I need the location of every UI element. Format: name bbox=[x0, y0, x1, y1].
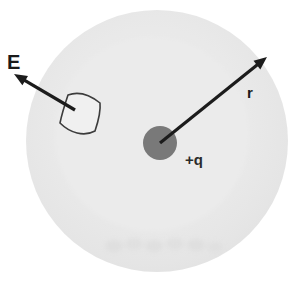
electric-field-label: E bbox=[7, 51, 20, 73]
gauss-law-diagram: E r +q bbox=[0, 0, 302, 283]
radius-label: r bbox=[247, 84, 253, 101]
diagram-canvas: E r +q bbox=[0, 0, 302, 283]
surface-area-element bbox=[60, 93, 100, 133]
charge-label: +q bbox=[185, 151, 203, 168]
